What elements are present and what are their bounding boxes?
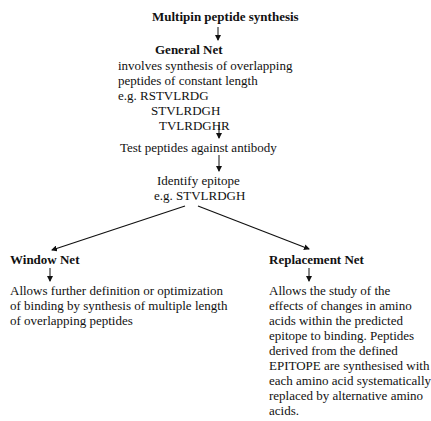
replacement-net-desc-line-4: epitope to binding. Peptides (269, 328, 414, 343)
window-net-desc-line-2: of binding by synthesis of multiple leng… (10, 298, 227, 313)
replacement-net-desc-line-2: effects of changes in amino (269, 298, 412, 313)
replacement-net-desc-line-8: replaced by alternative amino (269, 388, 423, 403)
replacement-net-desc-line-5: derived from the defined (269, 343, 398, 358)
replacement-net-desc-line-9: acids. (269, 403, 299, 418)
arrow-identify-to-replacement (198, 206, 309, 249)
replacement-net-desc-line-3: acids within the predicted (269, 313, 403, 328)
identify-epitope-line-2: e.g. STVLRDGH (154, 188, 245, 203)
replacement-net-heading: Replacement Net (269, 252, 364, 267)
general-net-line-2: peptides of constant length (118, 73, 258, 88)
replacement-net-desc-line-1: Allows the study of the (269, 283, 390, 298)
window-net-desc-line-3: of overlapping peptides (10, 313, 133, 328)
general-net-line-1: involves synthesis of overlapping (118, 58, 292, 73)
window-net-heading: Window Net (10, 252, 79, 267)
replacement-net-desc-line-6: EPITOPE are synthesised with (269, 358, 429, 373)
general-net-example-2: STVLRDGH (151, 103, 220, 118)
test-peptides-step: Test peptides against antibody (120, 140, 277, 155)
diagram-title: Multipin peptide synthesis (152, 9, 299, 24)
general-net-example-1: e.g. RSTVLRDG (118, 88, 209, 103)
general-net-heading: General Net (155, 42, 223, 57)
general-net-example-3: TVLRDGHR (159, 118, 230, 133)
window-net-desc-line-1: Allows further definition or optimizatio… (10, 283, 223, 298)
replacement-net-desc-line-7: each amino acid systematically (269, 373, 431, 388)
arrow-identify-to-window (52, 206, 185, 250)
identify-epitope-line-1: Identify epitope (157, 173, 240, 188)
